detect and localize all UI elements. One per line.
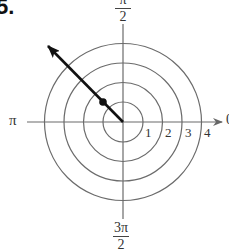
polar-grid-svg (0, 0, 229, 251)
ring-label-4: 4 (204, 126, 211, 139)
label-zero: 0 (226, 113, 229, 127)
ring-label-3: 3 (185, 126, 192, 139)
plotted-point (99, 98, 107, 106)
ring-label-2: 2 (165, 126, 172, 139)
label-3pi-over-2: 3π 2 (113, 221, 129, 251)
label-pi-over-2: π 2 (115, 0, 131, 24)
polar-diagram: 5. π 2 π 0 3π (0, 0, 229, 251)
ring-label-1: 1 (145, 126, 152, 139)
label-pi: π (9, 113, 17, 128)
